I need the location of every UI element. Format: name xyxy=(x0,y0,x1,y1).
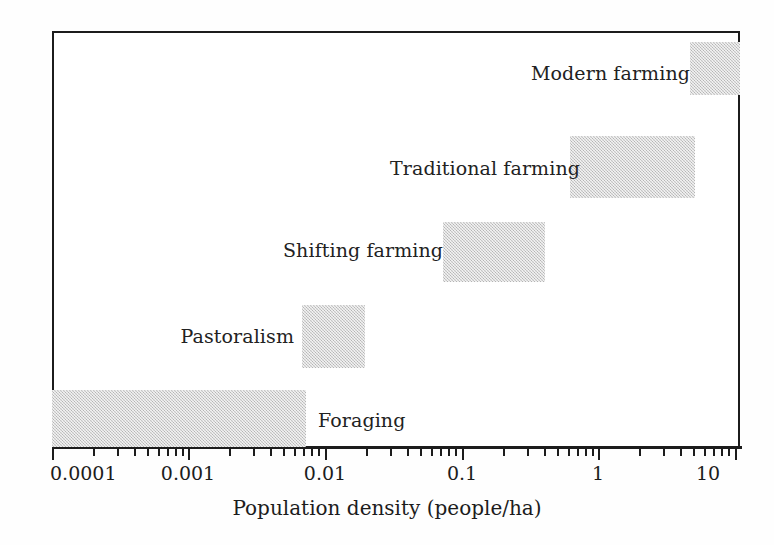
x-tick-minor-4 xyxy=(147,448,149,456)
x-tick-minor-5 xyxy=(158,448,160,456)
x-tick-0.0001 xyxy=(52,448,54,460)
x-tick-minor-8 xyxy=(182,448,184,456)
bar-label-foraging: Foraging xyxy=(318,409,408,431)
x-tick-label-1: 1 xyxy=(592,462,604,484)
bar-foraging xyxy=(52,390,306,447)
x-tick-minor-28 xyxy=(503,448,505,456)
x-tick-minor-34 xyxy=(585,448,587,456)
x-tick-minor-13 xyxy=(283,448,285,456)
bar-shifting-farming xyxy=(443,222,545,282)
x-tick-minor-35 xyxy=(592,448,594,456)
x-tick-minor-15 xyxy=(303,448,305,456)
x-tick-minor-23 xyxy=(431,448,433,456)
x-tick-label-0.001: 0.001 xyxy=(161,462,215,484)
x-tick-minor-14 xyxy=(294,448,296,456)
x-tick-minor-42 xyxy=(713,448,715,456)
x-tick-minor-1 xyxy=(93,448,95,456)
x-tick-minor-41 xyxy=(704,448,706,456)
x-tick-minor-38 xyxy=(663,448,665,456)
x-tick-minor-33 xyxy=(577,448,579,456)
x-tick-0.01 xyxy=(325,448,327,460)
x-tick-label-0.01: 0.01 xyxy=(304,462,346,484)
x-tick-minor-44 xyxy=(728,448,730,456)
x-tick-minor-39 xyxy=(680,448,682,456)
x-tick-minor-10 xyxy=(229,448,231,456)
x-tick-minor-12 xyxy=(270,448,272,456)
x-tick-minor-25 xyxy=(448,448,450,456)
x-tick-minor-7 xyxy=(175,448,177,456)
x-tick-label-10: 10 xyxy=(696,462,720,484)
x-tick-minor-31 xyxy=(557,448,559,456)
x-tick-1 xyxy=(598,448,600,460)
bar-label-traditional-farming: Traditional farming xyxy=(390,157,562,179)
x-tick-minor-20 xyxy=(390,448,392,456)
bar-pastoralism xyxy=(302,305,365,368)
bar-label-modern-farming: Modern farming xyxy=(531,62,681,84)
x-tick-0.001 xyxy=(188,448,190,460)
x-tick-minor-11 xyxy=(253,448,255,456)
x-tick-minor-21 xyxy=(407,448,409,456)
x-tick-minor-2 xyxy=(117,448,119,456)
x-tick-minor-32 xyxy=(568,448,570,456)
x-tick-minor-6 xyxy=(167,448,169,456)
bar-traditional-farming xyxy=(570,136,695,198)
x-tick-minor-22 xyxy=(420,448,422,456)
bar-label-shifting-farming: Shifting farming xyxy=(283,239,435,261)
x-tick-minor-24 xyxy=(440,448,442,456)
x-tick-minor-17 xyxy=(318,448,320,456)
x-tick-minor-37 xyxy=(639,448,641,456)
x-tick-minor-19 xyxy=(366,448,368,456)
x-tick-minor-29 xyxy=(527,448,529,456)
x-tick-minor-40 xyxy=(693,448,695,456)
x-tick-minor-26 xyxy=(455,448,457,456)
chart-figure: Modern farmingTraditional farmingShiftin… xyxy=(0,0,774,545)
x-tick-minor-30 xyxy=(544,448,546,456)
x-tick-minor-43 xyxy=(721,448,723,456)
x-tick-0.1 xyxy=(462,448,464,460)
x-tick-10 xyxy=(735,448,737,460)
bar-modern-farming xyxy=(690,42,740,95)
x-axis-title: Population density (people/ha) xyxy=(0,496,774,520)
x-tick-minor-3 xyxy=(134,448,136,456)
bar-label-pastoralism: Pastoralism xyxy=(176,325,294,347)
x-tick-label-0.0001: 0.0001 xyxy=(50,462,116,484)
x-tick-minor-16 xyxy=(311,448,313,456)
x-tick-label-0.1: 0.1 xyxy=(447,462,477,484)
